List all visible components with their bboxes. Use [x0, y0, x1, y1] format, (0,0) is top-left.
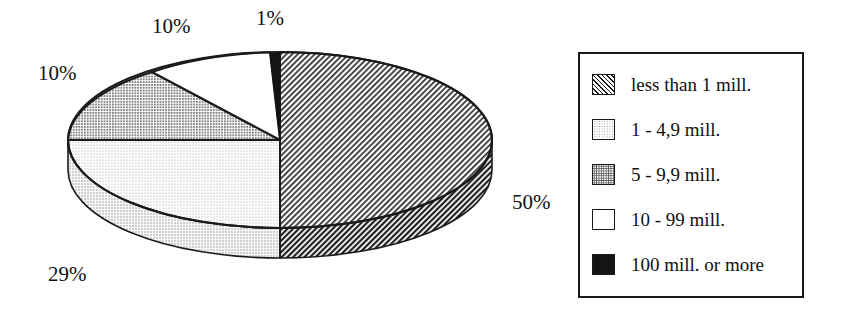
chart-legend: less than 1 mill. 1 - 4,9 mill. 5 - 9,9 … — [578, 52, 804, 298]
legend-label-10-to-99-mill: 10 - 99 mill. — [631, 209, 725, 231]
white-swatch-icon — [592, 209, 615, 230]
diagonal-hatch-swatch-icon — [592, 74, 615, 95]
legend-item-10-to-99-mill: 10 - 99 mill. — [592, 197, 796, 242]
black-swatch-icon — [592, 254, 615, 275]
pie-chart-plot-area: 50% 29% 10% 10% 1% — [0, 0, 560, 320]
pie-label-100-mill-or-more: 1% — [256, 6, 284, 31]
legend-label-1-to-4-9-mill: 1 - 4,9 mill. — [631, 119, 720, 141]
legend-item-100-mill-or-more: 100 mill. or more — [592, 242, 796, 287]
legend-item-5-to-9-9-mill: 5 - 9,9 mill. — [592, 152, 796, 197]
pie-label-10-to-99-mill: 10% — [152, 14, 191, 39]
legend-item-list: less than 1 mill. 1 - 4,9 mill. 5 - 9,9 … — [592, 62, 796, 290]
legend-item-less-than-1-mill: less than 1 mill. — [592, 62, 796, 107]
pie-chart-figure: 50% 29% 10% 10% 1% less than 1 mill. 1 -… — [0, 0, 844, 320]
legend-label-100-mill-or-more: 100 mill. or more — [631, 254, 764, 276]
legend-label-5-to-9-9-mill: 5 - 9,9 mill. — [631, 164, 720, 186]
light-stipple-swatch-icon — [592, 119, 615, 140]
pie-label-5-to-9-9-mill: 10% — [38, 61, 77, 86]
medium-stipple-swatch-icon — [592, 164, 615, 185]
legend-label-less-than-1-mill: less than 1 mill. — [631, 74, 751, 96]
pie-label-less-than-1-mill: 50% — [512, 190, 551, 215]
pie-label-1-to-4-9-mill: 29% — [48, 262, 87, 287]
legend-item-1-to-4-9-mill: 1 - 4,9 mill. — [592, 107, 796, 152]
